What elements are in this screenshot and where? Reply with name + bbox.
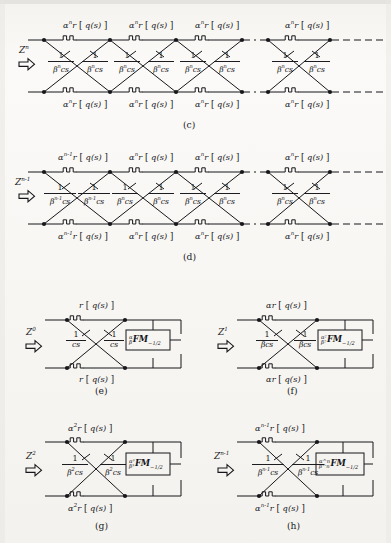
panel-d-top-branch-3: αnr [ q(s) ] <box>195 152 239 161</box>
panel-caption-f: (f) <box>287 386 298 395</box>
panel-d-bottom-branch-4: αnr [ q(s) ] <box>285 231 329 240</box>
panel-c-frac-5: 1βncs <box>180 52 206 74</box>
panel-h-frac-left: 1βn-1cs <box>252 455 284 477</box>
panel-c-bottom-branch-3: αnr [ q(s) ] <box>195 99 239 108</box>
panel-d-top-branch-4: αnr [ q(s) ] <box>285 152 329 161</box>
panel-c-top-branch-4: αnr [ q(s) ] <box>285 20 329 29</box>
panel-c-frac-4: 1βncs <box>148 52 174 74</box>
panel-e-bottom-branch: r [ q(s) ] <box>79 375 114 384</box>
panel-f-frac-left: 1βcs <box>256 331 278 349</box>
panel-g-source-symbol: Z2 <box>26 450 36 461</box>
panel-c-bottom-branch-1: αnr [ q(s) ] <box>63 99 107 108</box>
panel-d-bottom-branch-3: αnr [ q(s) ] <box>195 231 239 240</box>
panel-d-frac-4: 1βncs <box>148 184 174 206</box>
panel-d-source-symbol: Zn-1 <box>15 176 30 187</box>
panel-d-frac-2: 1βn-1cs <box>78 184 110 206</box>
panel-d-bottom-branch-2: αnr [ q(s) ] <box>129 231 173 240</box>
panel-c-bottom-branch-4: αnr [ q(s) ] <box>285 99 329 108</box>
panel-g-frac-right: 1β2cs <box>100 455 126 477</box>
panel-c-frac-8: 1βncs <box>304 52 330 74</box>
panel-c-frac-7: 1βncs <box>272 52 298 74</box>
panel-d-frac-5: 1βncs <box>180 184 206 206</box>
panel-g-top-branch: α2r [ q(s) ] <box>68 423 112 432</box>
panel-e-frac-right: 1cs <box>104 331 124 349</box>
panel-d-top-branch-1: αn-1r [ q(s) ] <box>58 152 108 161</box>
panel-h-top-branch: αn-1r [ q(s) ] <box>255 423 305 432</box>
panel-f-box-label: α²β²FM−1/2 <box>321 334 355 346</box>
panel-e-box-label: αβFM−1/2 <box>129 334 161 346</box>
panel-e-frac-left: 1cs <box>66 331 86 349</box>
panel-e-top-branch: r [ q(s) ] <box>79 301 114 310</box>
panel-c-top-branch-1: αnr [ q(s) ] <box>63 20 107 29</box>
panel-g-frac-left: 1β2cs <box>62 455 88 477</box>
panel-c-top-branch-2: αnr [ q(s) ] <box>129 20 173 29</box>
panel-c-frac-1: 1βncs <box>48 52 74 74</box>
panel-d-top-branch-2: αnr [ q(s) ] <box>129 152 173 161</box>
panel-h-box-label: α^nβ^nFM−1/2 <box>319 458 358 470</box>
panel-f-bottom-branch: αr [ q(s) ] <box>266 375 307 384</box>
panel-caption-e: (e) <box>95 386 108 395</box>
panel-caption-g: (g) <box>95 521 108 530</box>
panel-caption-c: (c) <box>183 120 195 129</box>
panel-c-frac-6: 1βncs <box>214 52 240 74</box>
panel-d-frac-3: 1βncs <box>112 184 138 206</box>
panel-d-frac-6: 1βncs <box>214 184 240 206</box>
panel-e-source-symbol: Z0 <box>26 326 36 337</box>
panel-f-frac-right: 1βcs <box>294 331 316 349</box>
panel-h-source-symbol: Zn-1 <box>214 450 229 461</box>
panel-g-bottom-branch: α2r [ q(s) ] <box>68 503 112 512</box>
panel-d-frac-1: 1βn-1cs <box>44 184 76 206</box>
panel-g-box-label: α³β³FM−1/2 <box>129 458 163 470</box>
panel-caption-d: (d) <box>183 252 196 261</box>
panel-c-top-branch-3: αnr [ q(s) ] <box>195 20 239 29</box>
panel-d-frac-7: 1βncs <box>272 184 298 206</box>
panel-f-top-branch: αr [ q(s) ] <box>266 301 307 310</box>
panel-c-frac-2: 1βncs <box>82 52 108 74</box>
panel-c-frac-3: 1βncs <box>114 52 140 74</box>
figure-stage: Zn αnr [ q(s) ] αnr [ q(s) ] αnr [ q(s) … <box>0 0 391 543</box>
panel-caption-h: (h) <box>287 521 300 530</box>
panel-f-source-symbol: Z1 <box>218 326 228 337</box>
panel-h-bottom-branch: αn-1r [ q(s) ] <box>255 503 305 512</box>
panel-c-source-symbol: Zn <box>19 44 29 55</box>
panel-d-bottom-branch-1: αn-1r [ q(s) ] <box>58 231 108 240</box>
panel-d-frac-8: 1βncs <box>304 184 330 206</box>
panel-c-bottom-branch-2: αnr [ q(s) ] <box>129 99 173 108</box>
